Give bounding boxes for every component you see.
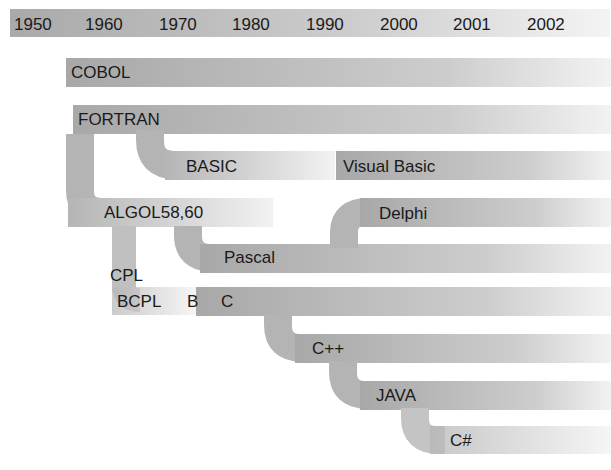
label-bcpl: BCPL <box>117 292 161 312</box>
label-cpp: C++ <box>312 339 344 359</box>
year-label: 1960 <box>85 15 123 35</box>
label-delphi: Delphi <box>379 204 427 224</box>
label-cobol: COBOL <box>71 63 131 83</box>
year-label: 1990 <box>306 15 344 35</box>
label-fortran: FORTRAN <box>78 110 160 130</box>
cobol-bar <box>66 58 611 87</box>
language-timeline-diagram: 1950 1960 1970 1980 1990 2000 2001 2002 … <box>0 0 611 470</box>
label-basic: BASIC <box>186 157 237 177</box>
year-label: 2002 <box>527 15 565 35</box>
year-label: 2001 <box>453 15 491 35</box>
label-pascal: Pascal <box>224 248 275 268</box>
year-label: 1950 <box>14 15 52 35</box>
year-label: 2000 <box>380 15 418 35</box>
label-java: JAVA <box>376 386 416 406</box>
year-label: 1980 <box>232 15 270 35</box>
label-visual-basic: Visual Basic <box>343 157 435 177</box>
label-b: B <box>187 292 198 312</box>
year-label: 1970 <box>159 15 197 35</box>
label-c: C <box>221 292 233 312</box>
c-bar <box>196 287 611 316</box>
label-csharp: C# <box>450 431 472 451</box>
label-algol: ALGOL58,60 <box>104 203 203 223</box>
label-cpl: CPL <box>110 266 143 286</box>
